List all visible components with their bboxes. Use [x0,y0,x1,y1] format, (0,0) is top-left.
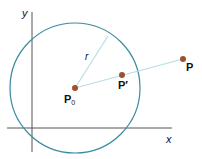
radius-label: r [85,51,88,62]
x-axis-label: x [166,133,172,145]
y-axis-label: y [22,7,28,19]
point-p-prime [119,72,125,78]
point-p0 [72,85,78,91]
p0-subscript: 0 [71,99,75,106]
p0-label: P0 [64,93,75,106]
p-prime-label: P′ [118,79,128,91]
p-label: P [186,61,193,73]
